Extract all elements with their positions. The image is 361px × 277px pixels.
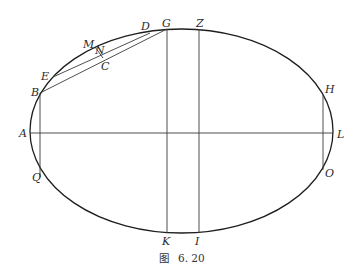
label-C: C bbox=[101, 60, 110, 73]
label-I: I bbox=[194, 235, 200, 248]
label-H: H bbox=[324, 83, 335, 96]
label-E: E bbox=[40, 70, 49, 83]
ellipse-diagram: A B E M N C D G Z H L O Q K I 图 6. 20 bbox=[0, 0, 361, 277]
label-G: G bbox=[162, 17, 171, 30]
caption-number: 6. 20 bbox=[178, 252, 205, 264]
label-L: L bbox=[336, 128, 344, 141]
label-O: O bbox=[325, 167, 334, 180]
ellipse-curve bbox=[30, 29, 333, 233]
label-K: K bbox=[161, 235, 171, 248]
label-A: A bbox=[18, 127, 27, 140]
label-B: B bbox=[30, 86, 39, 99]
label-D: D bbox=[140, 20, 150, 33]
label-M: M bbox=[82, 38, 95, 51]
caption-prefix: 图 bbox=[159, 252, 169, 264]
label-Z: Z bbox=[195, 17, 204, 30]
label-Q: Q bbox=[32, 171, 41, 184]
label-N: N bbox=[94, 44, 105, 57]
